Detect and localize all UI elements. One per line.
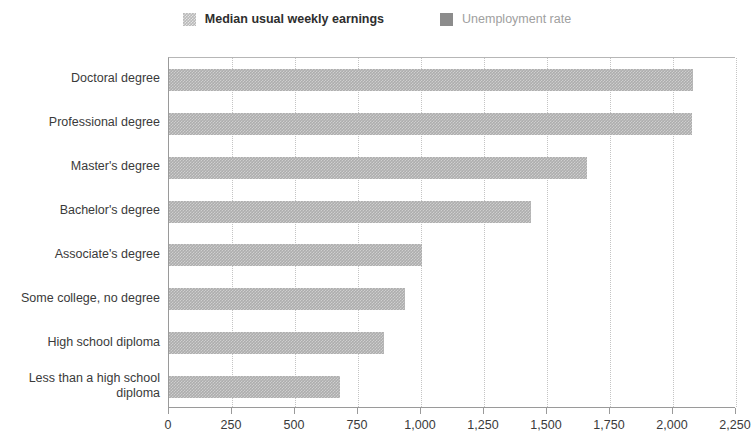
x-axis-tick-label: 2,250 [719, 418, 750, 433]
legend-swatch-icon [440, 13, 453, 26]
x-axis-tick-label: 1,000 [404, 418, 435, 433]
y-axis-label: Less than a high school diploma [0, 371, 160, 401]
chart-figure: Median usual weekly earnings Unemploymen… [0, 0, 754, 446]
x-axis-tick-label: 1,750 [593, 418, 624, 433]
x-axis-tick-label: 500 [284, 418, 305, 433]
y-axis-label: Bachelor's degree [0, 203, 160, 218]
x-axis-tick-label: 2,000 [656, 418, 687, 433]
bar[interactable] [169, 288, 405, 310]
x-axis-tick-label: 1,250 [467, 418, 498, 433]
tick-mark [546, 408, 547, 414]
bar-band [169, 277, 735, 321]
legend-label: Median usual weekly earnings [205, 12, 384, 26]
y-axis-label: Master's degree [0, 159, 160, 174]
bar[interactable] [169, 376, 340, 398]
plot-area [168, 57, 735, 408]
x-axis: 02505007501,0001,2501,5001,7502,0002,250 [168, 408, 735, 446]
tick-mark [168, 408, 169, 414]
bar[interactable] [169, 113, 692, 135]
tick-mark [420, 408, 421, 414]
legend-item-median-usual-weekly-earnings[interactable]: Median usual weekly earnings [183, 12, 384, 26]
bar-band [169, 190, 735, 234]
tick-mark [357, 408, 358, 414]
y-axis-label: Associate's degree [0, 247, 160, 262]
tick-mark [231, 408, 232, 414]
tick-mark [609, 408, 610, 414]
x-axis-tick-label: 250 [221, 418, 242, 433]
bar-band [169, 146, 735, 190]
bar[interactable] [169, 332, 384, 354]
bar[interactable] [169, 244, 422, 266]
legend-label: Unemployment rate [462, 12, 571, 26]
x-axis-tick-label: 0 [165, 418, 172, 433]
bar-band [169, 234, 735, 278]
tick-mark [735, 408, 736, 414]
y-axis-label: Professional degree [0, 115, 160, 130]
gridline [736, 58, 737, 407]
bar[interactable] [169, 69, 693, 91]
bar[interactable] [169, 201, 531, 223]
bar-band [169, 102, 735, 146]
tick-mark [672, 408, 673, 414]
legend-item-unemployment-rate[interactable]: Unemployment rate [440, 12, 571, 26]
bar-band [169, 58, 735, 102]
y-axis-label: High school diploma [0, 335, 160, 350]
y-axis-label: Doctoral degree [0, 71, 160, 86]
y-axis-label: Some college, no degree [0, 291, 160, 306]
bar[interactable] [169, 157, 587, 179]
bar-band [169, 321, 735, 365]
x-axis-tick-label: 750 [347, 418, 368, 433]
legend-swatch-icon [183, 13, 196, 26]
tick-mark [483, 408, 484, 414]
bar-band [169, 365, 735, 409]
chart-legend: Median usual weekly earnings Unemploymen… [0, 6, 754, 32]
bar-series-median-usual-weekly-earnings [169, 58, 735, 407]
tick-mark [294, 408, 295, 414]
x-axis-tick-label: 1,500 [530, 418, 561, 433]
y-axis-category-labels: Doctoral degreeProfessional degreeMaster… [0, 57, 160, 408]
